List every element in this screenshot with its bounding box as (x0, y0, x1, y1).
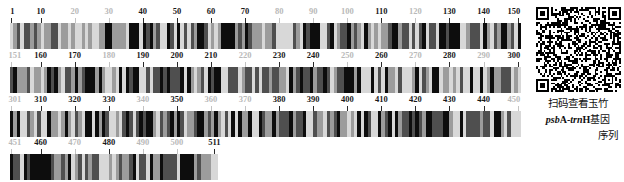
tick-label: 320 (68, 94, 81, 104)
tick-label: 301 (8, 94, 21, 104)
tick-label: 490 (136, 137, 149, 147)
barcode-ruler: 3013103203303403503603703803904004104204… (10, 94, 521, 111)
tick-label: 151 (8, 50, 21, 60)
tick-label: 370 (239, 94, 252, 104)
barcode-bar (518, 67, 521, 93)
tick-label: 180 (102, 50, 115, 60)
caption-line-1: 扫码查看玉竹 (532, 96, 624, 112)
barcode-row: 451460470480490500511 (10, 137, 218, 180)
tick-label: 270 (409, 50, 422, 60)
tick-label: 80 (275, 6, 284, 16)
tick-label: 150 (507, 6, 520, 16)
tick-label: 190 (136, 50, 149, 60)
tick-label: 140 (477, 6, 490, 16)
tick-label: 260 (375, 50, 388, 60)
qr-code-image[interactable] (536, 7, 621, 92)
tick-label: 450 (507, 94, 520, 104)
tick-label: 420 (409, 94, 422, 104)
barcode-row: 1102030405060708090100110120130140150 (10, 6, 521, 49)
tick-label: 400 (341, 94, 354, 104)
barcode-row: 3013103203303403503603703803904004104204… (10, 94, 521, 137)
gene-name-a: A- (560, 114, 571, 125)
gene-name-trn: trn (570, 114, 582, 125)
tick-label: 480 (102, 137, 115, 147)
barcode-row: 1511601701801902002102202302402502602702… (10, 50, 521, 93)
gene-name-psb: psb (546, 114, 560, 125)
tick-label: 70 (241, 6, 250, 16)
tick-label: 440 (477, 94, 490, 104)
tick-label: 460 (34, 137, 47, 147)
tick-label: 310 (34, 94, 47, 104)
tick-label: 40 (139, 6, 148, 16)
tick-label: 100 (341, 6, 354, 16)
barcode-ruler: 451460470480490500511 (10, 137, 218, 154)
tick-label: 220 (239, 50, 252, 60)
tick-label: 470 (68, 137, 81, 147)
tick-label: 170 (68, 50, 81, 60)
tick-label: 60 (207, 6, 216, 16)
qr-panel: 扫码查看玉竹 psbA-trnH基因 序列 (532, 0, 624, 182)
tick-label: 410 (375, 94, 388, 104)
tick-label: 240 (307, 50, 320, 60)
tick-label: 90 (309, 6, 318, 16)
barcode-panel: 1102030405060708090100110120130140150151… (0, 0, 530, 182)
tick-label: 511 (208, 137, 220, 147)
tick-label: 390 (307, 94, 320, 104)
tick-label: 500 (171, 137, 184, 147)
caption-line-2: psbA-trnH基因 (532, 112, 624, 128)
barcode-bar (518, 111, 521, 137)
tick-label: 430 (443, 94, 456, 104)
barcode-bars (10, 67, 521, 93)
tick-label: 290 (477, 50, 490, 60)
tick-label: 120 (409, 6, 422, 16)
qr-caption: 扫码查看玉竹 psbA-trnH基因 序列 (532, 96, 624, 144)
barcode-bars (10, 111, 521, 137)
tick-label: 210 (205, 50, 218, 60)
tick-label: 10 (36, 6, 45, 16)
tick-label: 250 (341, 50, 354, 60)
barcode-ruler: 1102030405060708090100110120130140150 (10, 6, 521, 23)
tick-label: 380 (273, 94, 286, 104)
tick-label: 451 (8, 137, 21, 147)
tick-label: 50 (173, 6, 182, 16)
tick-label: 300 (507, 50, 520, 60)
caption-gene-suffix: 基因 (590, 114, 610, 125)
tick-label: 350 (171, 94, 184, 104)
caption-line-3: 序列 (532, 128, 624, 144)
tick-label: 30 (105, 6, 114, 16)
tick-label: 280 (443, 50, 456, 60)
barcode-bar (518, 23, 521, 49)
tick-label: 1 (10, 6, 14, 16)
tick-label: 160 (34, 50, 47, 60)
barcode-bars (10, 23, 521, 49)
barcode-ruler: 1511601701801902002102202302402502602702… (10, 50, 521, 67)
tick-label: 340 (136, 94, 149, 104)
dna-barcode-figure: 1102030405060708090100110120130140150151… (0, 0, 624, 182)
tick-label: 360 (205, 94, 218, 104)
tick-label: 330 (102, 94, 115, 104)
tick-label: 230 (273, 50, 286, 60)
barcode-bar (214, 154, 217, 180)
tick-label: 200 (171, 50, 184, 60)
tick-label: 130 (443, 6, 456, 16)
barcode-bars (10, 154, 218, 180)
tick-label: 110 (375, 6, 387, 16)
tick-label: 20 (70, 6, 79, 16)
